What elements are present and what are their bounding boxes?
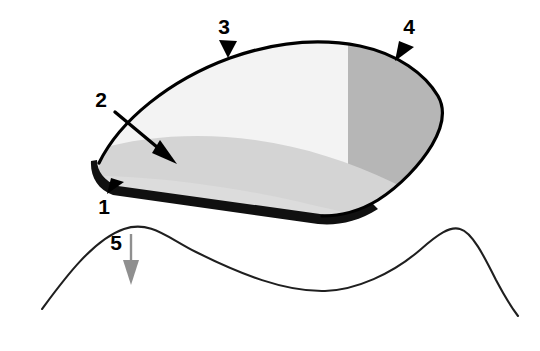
diagram-canvas: 1 2 3 4 5 (0, 0, 540, 351)
callout-label-5: 5 (110, 231, 122, 254)
callout-4-arrowhead-icon (395, 41, 414, 61)
callout-5-arrowhead-icon (123, 260, 139, 285)
callout-label-3: 3 (218, 15, 230, 38)
callout-label-4: 4 (403, 15, 415, 38)
callout-5-gray-arrow (123, 234, 139, 285)
callout-label-1: 1 (98, 195, 110, 218)
figure-root: 1 2 3 4 5 (0, 0, 540, 351)
callout-label-2: 2 (95, 88, 107, 111)
